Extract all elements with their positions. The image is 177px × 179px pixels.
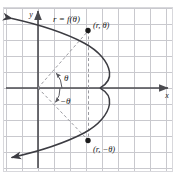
point-lower-label: (r, −θ) [93, 144, 115, 154]
angle-negative-label: −θ [60, 96, 71, 106]
angle-positive-label: θ [64, 73, 69, 83]
x-axis-label: x [164, 91, 169, 100]
y-axis-label: y [28, 10, 33, 19]
point-upper-marker [85, 28, 90, 33]
point-upper-label: (r, θ) [93, 20, 110, 30]
curve-equation-label: r = f(θ) [53, 14, 80, 24]
point-lower-marker [85, 138, 90, 143]
polar-curve-figure: y x r = f(θ) (r, θ) (r, −θ) θ −θ [0, 0, 177, 179]
